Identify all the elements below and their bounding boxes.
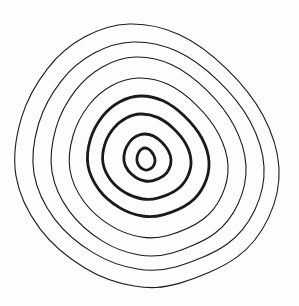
contour-ring-8: [15, 24, 279, 288]
contour-ring-1: [137, 148, 155, 170]
contour-ring-3: [103, 114, 191, 200]
contour-ring-5: [69, 78, 228, 238]
contour-ring-6: [51, 57, 246, 256]
contour-ring-2: [124, 134, 171, 181]
contour-diagram: [0, 0, 299, 306]
concentric-rings-figure: [0, 0, 299, 306]
contour-ring-7: [33, 42, 264, 270]
